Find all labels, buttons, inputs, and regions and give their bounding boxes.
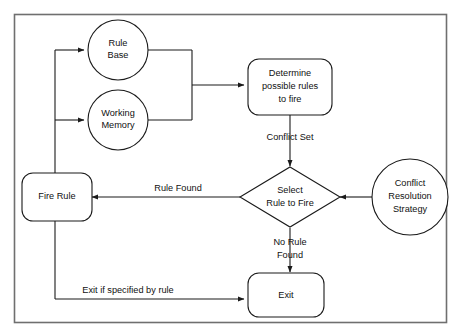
flowchart-svg: Rule Base Working Memory Determine possi… <box>0 0 461 336</box>
node-fire-rule[interactable]: Fire Rule <box>22 173 92 221</box>
select-rule-label-line2: Rule to Fire <box>266 198 314 208</box>
edge-label-exit-if-specified: Exit if specified by rule <box>82 285 173 295</box>
node-rule-base[interactable]: Rule Base <box>88 20 148 80</box>
working-memory-label-line1: Working <box>101 108 135 118</box>
exit-label: Exit <box>278 290 294 300</box>
rule-base-label-line2: Base <box>108 50 129 60</box>
conflict-strategy-label-line3: Strategy <box>393 204 428 214</box>
fire-rule-label: Fire Rule <box>38 191 75 201</box>
determine-rules-label-line2: possible rules <box>262 81 319 91</box>
conflict-strategy-label-line2: Resolution <box>388 191 431 201</box>
node-determine-rules[interactable]: Determine possible rules to fire <box>248 59 332 115</box>
diagram-canvas: Rule Base Working Memory Determine possi… <box>0 0 461 336</box>
working-memory-label-line2: Memory <box>101 120 135 130</box>
edge-label-rule-found: Rule Found <box>154 183 202 193</box>
edge-label-no-rule-found-line2: Found <box>277 250 303 260</box>
node-conflict-resolution-strategy[interactable]: Conflict Resolution Strategy <box>372 159 448 235</box>
select-rule-label-line1: Select <box>277 185 303 195</box>
determine-rules-label-line3: to fire <box>279 94 302 104</box>
node-exit[interactable]: Exit <box>248 273 324 317</box>
diagram-frame <box>15 15 447 323</box>
determine-rules-label-line1: Determine <box>269 68 311 78</box>
conflict-strategy-label-line1: Conflict <box>395 178 426 188</box>
edge-label-no-rule-found-line1: No Rule <box>273 237 306 247</box>
edge-label-conflict-set: Conflict Set <box>267 132 314 142</box>
rule-base-label-line1: Rule <box>109 38 128 48</box>
node-working-memory[interactable]: Working Memory <box>88 90 148 150</box>
